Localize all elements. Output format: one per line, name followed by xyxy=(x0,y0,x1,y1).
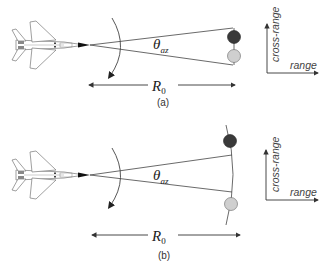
cross-range-label: cross-range xyxy=(269,6,281,62)
aircraft-icon xyxy=(12,21,90,69)
aircraft-icon xyxy=(12,151,90,199)
beam-upper-edge xyxy=(90,155,232,175)
panel-caption: (a) xyxy=(157,97,169,108)
target-dark xyxy=(228,31,241,44)
beam-upper-edge xyxy=(90,28,233,45)
panel-a: θaz R0 (a) cross-range range xyxy=(12,6,318,108)
angle-label: θaz xyxy=(153,36,169,55)
radar-azimuth-diagram: θaz R0 (a) cross-range range θaz xyxy=(0,0,326,269)
range-label: R0 xyxy=(151,228,166,246)
cross-range-label: cross-range xyxy=(269,136,281,192)
range-axis-label: range xyxy=(290,186,317,198)
target-light xyxy=(228,50,241,63)
panel-caption: (b) xyxy=(158,250,170,261)
range-label: R0 xyxy=(151,78,166,96)
range-axis-label: range xyxy=(290,59,317,71)
target-light xyxy=(225,198,238,211)
rotation-arrow-icon xyxy=(110,18,121,76)
rotation-arrow-icon xyxy=(110,148,121,206)
panel-b: θaz R0 (b) cross-range range xyxy=(12,125,318,261)
target-dark xyxy=(224,135,237,148)
